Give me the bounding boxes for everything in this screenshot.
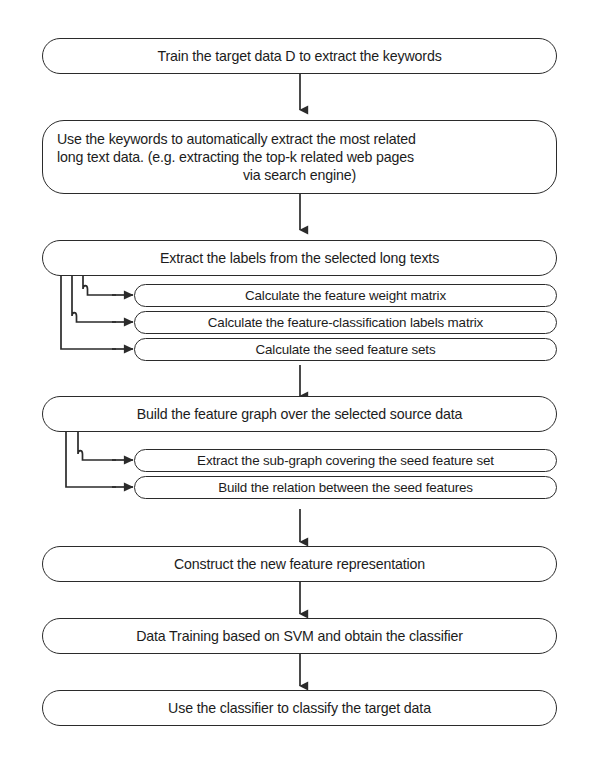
branch2-drop-inner — [78, 432, 116, 460]
node-feature-classification-labels-matrix[interactable]: Calculate the feature-classification lab… — [134, 311, 557, 334]
node-label: Data Training based on SVM and obtain th… — [57, 627, 542, 645]
node-label: Build the feature graph over the selecte… — [57, 405, 542, 423]
node-label: Extract the sub-graph covering the seed … — [149, 452, 542, 469]
node-label: Use the classifier to classify the targe… — [57, 699, 542, 717]
node-label: Train the target data D to extract the k… — [57, 47, 542, 65]
branch1-drop-inner — [83, 276, 116, 295]
flowchart-diagram: Train the target data D to extract the k… — [0, 0, 591, 769]
node-seed-feature-sets[interactable]: Calculate the seed feature sets — [134, 338, 557, 361]
node-label-line-1: Use the keywords to automatically extrac… — [57, 130, 542, 148]
node-build-relation[interactable]: Build the relation between the seed feat… — [134, 476, 557, 499]
node-extract-long-text[interactable]: Use the keywords to automatically extrac… — [42, 120, 557, 194]
node-construct-representation[interactable]: Construct the new feature representation — [42, 546, 557, 582]
node-extract-subgraph[interactable]: Extract the sub-graph covering the seed … — [134, 449, 557, 472]
node-build-feature-graph[interactable]: Build the feature graph over the selecte… — [42, 396, 557, 432]
branch1-drop-outer — [61, 276, 116, 349]
node-label: Calculate the feature weight matrix — [149, 287, 542, 304]
node-label: Extract the labels from the selected lon… — [57, 249, 542, 267]
node-train-target-data[interactable]: Train the target data D to extract the k… — [42, 38, 557, 74]
node-label: Build the relation between the seed feat… — [149, 479, 542, 496]
node-data-training-svm[interactable]: Data Training based on SVM and obtain th… — [42, 618, 557, 654]
figure-caption — [0, 760, 591, 769]
node-extract-labels[interactable]: Extract the labels from the selected lon… — [42, 240, 557, 276]
node-use-classifier[interactable]: Use the classifier to classify the targe… — [42, 690, 557, 726]
node-label-line-2: long text data. (e.g. extracting the top… — [57, 148, 542, 166]
node-label: Construct the new feature representation — [57, 555, 542, 573]
node-feature-weight-matrix[interactable]: Calculate the feature weight matrix — [134, 284, 557, 307]
node-label: Calculate the feature-classification lab… — [149, 314, 542, 331]
node-label-line-3: via search engine) — [57, 166, 542, 184]
branch1-drop-middle — [72, 276, 116, 322]
node-label: Calculate the seed feature sets — [149, 341, 542, 358]
